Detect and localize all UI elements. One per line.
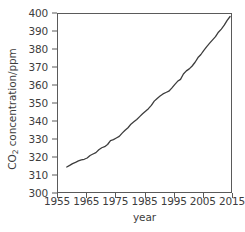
x-tick-mark xyxy=(115,193,116,198)
x-tick-mark xyxy=(174,193,175,198)
x-axis-tick-labels: 1955196519751985199520052015 xyxy=(0,0,245,232)
x-axis-label: year xyxy=(57,211,232,223)
co2-line-chart-figure: 300310320330340350360370380390400 CO2 co… xyxy=(0,0,245,232)
x-tick-mark xyxy=(145,193,146,198)
x-tick-mark xyxy=(57,193,58,198)
x-tick-mark xyxy=(86,193,87,198)
x-tick-mark xyxy=(232,193,233,198)
x-tick-mark xyxy=(203,193,204,198)
